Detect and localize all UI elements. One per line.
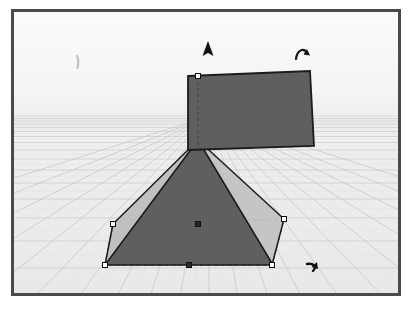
plane-face[interactable] — [188, 71, 314, 150]
extrude-arrow-up-icon[interactable] — [203, 41, 214, 56]
handle-base-back-right[interactable] — [282, 217, 287, 222]
handle-base-back-left[interactable] — [111, 222, 116, 227]
handle-base-front-mid[interactable] — [187, 263, 192, 268]
app-root — [0, 0, 415, 313]
rotate-handle-top-right-icon[interactable] — [296, 49, 310, 59]
handle-base-center[interactable] — [196, 222, 201, 227]
handle-base-front-left[interactable] — [103, 263, 108, 268]
axis-tick-marker-icon — [77, 56, 78, 68]
viewport-frame[interactable] — [11, 9, 401, 296]
rotate-handle-bottom-right-icon[interactable] — [307, 262, 318, 271]
handle-plane-top-mid[interactable] — [196, 74, 201, 79]
scene-canvas[interactable] — [14, 12, 398, 293]
handle-base-front-right[interactable] — [270, 263, 275, 268]
extruded-plane-object[interactable] — [188, 71, 314, 150]
